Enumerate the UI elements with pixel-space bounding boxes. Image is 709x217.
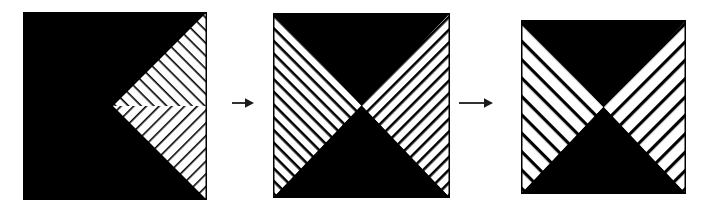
square-panel-2	[273, 13, 450, 198]
right-arrow-icon	[458, 94, 494, 112]
arrow-head	[245, 98, 254, 108]
square-panel-1	[23, 12, 207, 200]
square-1-graphic	[23, 12, 207, 200]
square-3-graphic	[521, 20, 686, 194]
arrow-head	[484, 98, 493, 108]
right-arrow-icon	[231, 94, 255, 112]
square-panel-3	[521, 20, 686, 194]
square-2-graphic	[273, 13, 450, 198]
figure-canvas: Sequence of three hatched square diagram…	[0, 0, 709, 217]
arrow-2-right	[458, 94, 494, 112]
arrow-1-right	[231, 94, 255, 112]
